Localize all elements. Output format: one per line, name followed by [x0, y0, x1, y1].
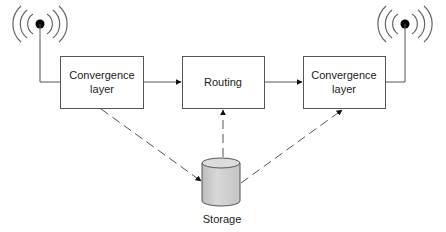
- storage-database-icon: [202, 158, 240, 206]
- left-convergence-label-line2: layer: [90, 83, 114, 95]
- left-convergence-label-line1: Convergence: [69, 69, 134, 81]
- dashed-arrow-left-to-storage: [101, 109, 201, 181]
- routing-label: Routing: [204, 76, 242, 88]
- right-convergence-label-line1: Convergence: [311, 69, 376, 81]
- routing-box: Routing: [183, 57, 265, 109]
- right-convergence-layer-box: Convergence layer: [304, 57, 386, 109]
- dashed-arrow-storage-to-right: [241, 110, 342, 183]
- left-convergence-layer-box: Convergence layer: [61, 57, 144, 109]
- network-architecture-diagram: Convergence layer Routing Convergence la…: [0, 0, 446, 232]
- storage-label: Storage: [203, 213, 242, 225]
- right-convergence-label-line2: layer: [332, 83, 356, 95]
